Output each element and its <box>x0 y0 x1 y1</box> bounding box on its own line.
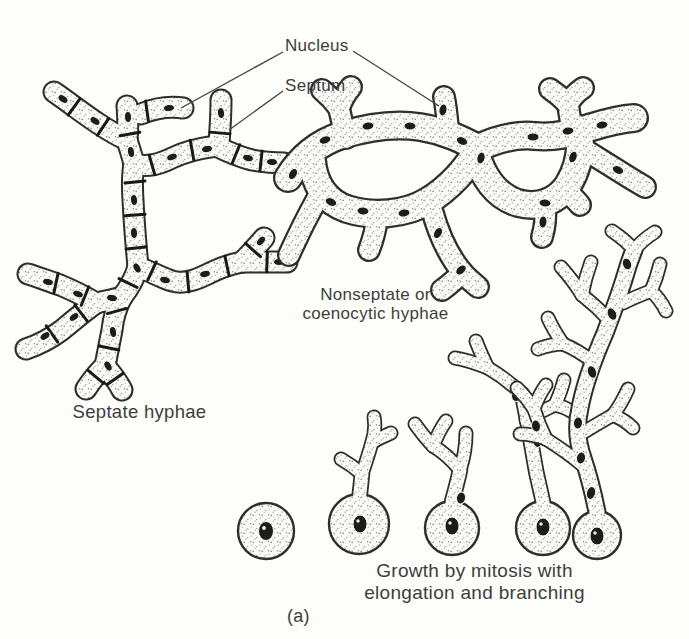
nonseptate-hyphae-label: Nonseptate or coenocytic hyphae <box>278 286 473 323</box>
growth-caption-line1: Growth by mitosis with <box>327 560 622 582</box>
septum-label: Septum <box>285 76 345 96</box>
growth-stage-2 <box>329 417 391 554</box>
nonseptate-label-line1: Nonseptate or <box>278 286 473 305</box>
septum-leader-line <box>229 91 283 130</box>
subfigure-label: (a) <box>287 606 310 627</box>
figure-canvas: Nucleus Septum Septate hyphae Nonseptate… <box>0 0 689 639</box>
septate-hyphae-label: Septate hyphae <box>52 401 227 423</box>
growth-stage-3 <box>415 421 479 555</box>
nucleus-leader-right-line <box>353 51 439 106</box>
growth-stage-1 <box>238 503 294 559</box>
growth-caption: Growth by mitosis with elongation and br… <box>327 560 622 604</box>
septate-hyphae-drawing <box>26 92 287 390</box>
nucleus-label: Nucleus <box>285 36 349 56</box>
nonseptate-label-line2: coenocytic hyphae <box>278 305 473 324</box>
septate-outlines <box>26 92 287 390</box>
growth-caption-line2: elongation and branching <box>327 582 622 604</box>
